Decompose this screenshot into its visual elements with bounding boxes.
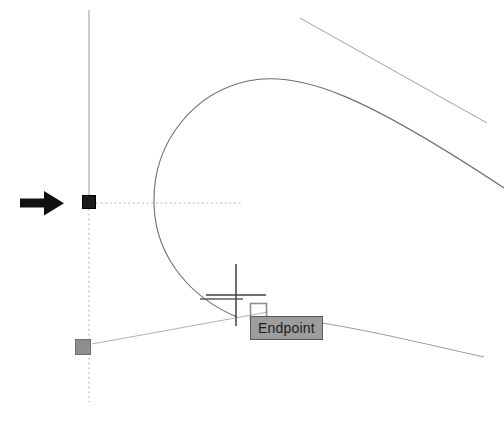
grip-unselected[interactable] bbox=[76, 340, 91, 355]
upper-diagonal-line[interactable] bbox=[300, 18, 487, 123]
drawing-canvas bbox=[0, 0, 504, 428]
grip-selected[interactable] bbox=[83, 196, 96, 209]
main-arc[interactable] bbox=[154, 79, 504, 317]
osnap-tooltip: Endpoint bbox=[250, 316, 323, 340]
osnap-tooltip-label: Endpoint bbox=[258, 321, 315, 335]
annotation-arrow-icon bbox=[20, 191, 64, 216]
lower-right-line[interactable] bbox=[322, 323, 484, 357]
grip-to-cursor-line[interactable] bbox=[92, 312, 268, 344]
cad-viewport[interactable]: Endpoint bbox=[0, 0, 504, 428]
